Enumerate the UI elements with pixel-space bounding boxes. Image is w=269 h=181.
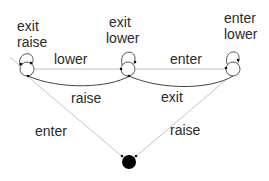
edge-middle-to-left bbox=[28, 76, 129, 86]
label-left-self-loop: exit raise bbox=[17, 18, 47, 50]
label-right-loop-enter: enter bbox=[224, 10, 257, 26]
label-right-self-loop: enter lower bbox=[224, 10, 257, 42]
label-right-to-middle: exit bbox=[161, 89, 183, 105]
label-left-loop-raise: raise bbox=[17, 34, 47, 50]
label-middle-loop-lower: lower bbox=[106, 30, 139, 46]
edge-bottom-to-left bbox=[27, 76, 124, 158]
label-middle-self-loop: exit lower bbox=[106, 14, 139, 46]
state-middle bbox=[120, 52, 137, 76]
label-middle-to-left: raise bbox=[71, 90, 101, 106]
label-left-loop-exit: exit bbox=[17, 18, 47, 34]
state-left bbox=[20, 54, 34, 76]
label-left-to-middle: lower bbox=[54, 51, 87, 67]
state-right bbox=[225, 52, 240, 76]
label-middle-loop-exit: exit bbox=[106, 14, 139, 30]
label-bottom-to-left: enter bbox=[35, 123, 67, 139]
label-bottom-to-right: raise bbox=[170, 122, 200, 138]
bottom-node bbox=[122, 155, 136, 169]
edge-right-to-middle bbox=[129, 76, 233, 87]
label-right-loop-lower: lower bbox=[224, 26, 257, 42]
label-middle-to-right: enter bbox=[170, 51, 202, 67]
